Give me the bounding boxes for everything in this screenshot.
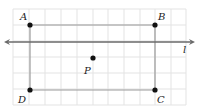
point-p-dot xyxy=(90,55,95,60)
geometry-figure: ABCDP l xyxy=(0,0,199,112)
point-b-dot xyxy=(152,22,157,27)
point-d-label: D xyxy=(17,94,26,105)
point-d-dot xyxy=(27,87,32,92)
line-l xyxy=(4,39,195,45)
point-c-label: C xyxy=(157,94,165,105)
point-a-dot xyxy=(27,22,32,27)
point-c-dot xyxy=(152,87,157,92)
point-a-label: A xyxy=(19,11,27,22)
point-b-label: B xyxy=(157,11,165,22)
line-l-label: l xyxy=(183,44,186,55)
point-p-label: P xyxy=(83,65,91,76)
